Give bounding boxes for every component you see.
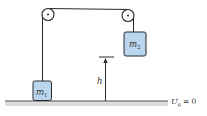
m1-symbol: m <box>36 87 44 97</box>
m2-subscript: 2 <box>137 44 141 50</box>
m1-subscript: 1 <box>44 92 48 98</box>
ground-shading <box>5 101 168 106</box>
top-rope <box>47 9 129 10</box>
zero-potential-label: Ug= 0 <box>171 97 197 108</box>
U-subscript: g <box>178 101 182 108</box>
height-label: h <box>97 76 102 86</box>
mass-m2-block: m2 <box>124 32 146 56</box>
m2-symbol: m <box>129 39 137 49</box>
equals-zero: = 0 <box>183 97 197 106</box>
atwood-machine-diagram: m1 m2 h Ug= 0 <box>0 0 207 116</box>
arrowhead-icon <box>103 58 107 63</box>
mass-m1-block: m1 <box>33 81 52 101</box>
left-pulley-icon <box>42 9 54 21</box>
right-pulley-icon <box>122 10 134 22</box>
